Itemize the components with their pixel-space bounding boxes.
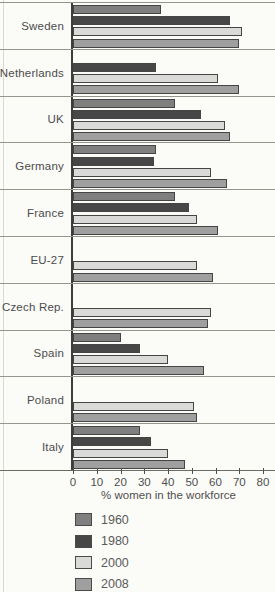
category-bars xyxy=(71,237,275,283)
bar-slot xyxy=(73,425,275,436)
bar-slot xyxy=(73,109,275,120)
bar-2000 xyxy=(73,308,211,317)
category-bars xyxy=(71,143,275,189)
bar-2008 xyxy=(73,226,218,235)
x-axis-tick xyxy=(216,468,217,474)
bar-2000 xyxy=(73,168,211,177)
legend-swatch-2008 xyxy=(75,578,92,591)
bar-slot xyxy=(73,38,275,49)
bar-chart: SwedenNetherlandsUKGermanyFranceEU-27Cze… xyxy=(0,0,275,504)
bar-slot xyxy=(73,26,275,37)
bar-1960 xyxy=(73,333,121,342)
category-label: Germany xyxy=(0,143,71,189)
bar-2000 xyxy=(73,215,197,224)
category-label: Sweden xyxy=(0,3,71,49)
bar-2008 xyxy=(73,179,227,188)
legend-swatch-1960 xyxy=(75,513,92,526)
bar-2000 xyxy=(73,74,218,83)
legend-label: 2008 xyxy=(101,577,129,591)
bar-slot xyxy=(73,307,275,318)
bar-slot xyxy=(73,191,275,202)
bar-slot xyxy=(73,225,275,236)
x-axis-tick-label: 40 xyxy=(162,476,175,488)
x-axis: 01020304050607080 % women in the workfor… xyxy=(0,470,275,504)
x-axis-tick xyxy=(121,468,122,474)
bar-slot xyxy=(73,15,275,26)
category-label: Netherlands xyxy=(0,50,71,96)
bar-slot xyxy=(73,378,275,389)
category-bars xyxy=(71,331,275,377)
bar-2000 xyxy=(73,449,168,458)
legend-label: 2000 xyxy=(101,556,129,570)
bar-slot xyxy=(73,202,275,213)
bar-2000 xyxy=(73,355,168,364)
bar-1960 xyxy=(73,5,161,14)
bar-slot xyxy=(73,214,275,225)
bar-slot xyxy=(73,272,275,283)
bar-2000 xyxy=(73,27,242,36)
x-axis-tick xyxy=(239,468,240,474)
legend-label: 1980 xyxy=(101,534,129,548)
bar-slot xyxy=(73,390,275,401)
category-bars xyxy=(71,377,275,423)
category-bars xyxy=(71,3,275,49)
bar-slot xyxy=(73,238,275,249)
bar-1980 xyxy=(73,110,201,119)
bar-slot xyxy=(73,167,275,178)
chart-row: Sweden xyxy=(0,2,275,49)
category-label: Poland xyxy=(0,377,71,423)
bar-2008 xyxy=(73,39,239,48)
bar-slot xyxy=(73,249,275,260)
category-bars xyxy=(71,97,275,143)
x-axis-tick xyxy=(73,468,74,474)
legend-swatch-1980 xyxy=(75,535,92,548)
bar-1980 xyxy=(73,344,140,353)
chart-row: Poland xyxy=(0,376,275,423)
bar-slot xyxy=(73,62,275,73)
bar-slot xyxy=(73,354,275,365)
bar-slot xyxy=(73,131,275,142)
bar-1980 xyxy=(73,437,151,446)
chart-row: Netherlands xyxy=(0,49,275,96)
category-label: EU-27 xyxy=(0,237,71,283)
chart-page: SwedenNetherlandsUKGermanyFranceEU-27Cze… xyxy=(0,0,275,592)
chart-row: Germany xyxy=(0,142,275,189)
bar-slot xyxy=(73,260,275,271)
legend-label: 1960 xyxy=(101,513,129,527)
category-label: Spain xyxy=(0,331,71,377)
bar-1960 xyxy=(73,426,140,435)
bar-1960 xyxy=(73,192,175,201)
bar-1960 xyxy=(73,99,175,108)
x-axis-tick xyxy=(144,468,145,474)
bar-2008 xyxy=(73,366,204,375)
x-axis-tick xyxy=(168,468,169,474)
bar-2008 xyxy=(73,413,197,422)
bar-slot xyxy=(73,365,275,376)
legend-item-2000: 2000 xyxy=(75,552,275,574)
x-axis-line xyxy=(0,470,275,471)
x-axis-tick-label: 70 xyxy=(233,476,246,488)
legend-swatch-2000 xyxy=(75,556,92,569)
bar-slot xyxy=(73,156,275,167)
chart-rows: SwedenNetherlandsUKGermanyFranceEU-27Cze… xyxy=(0,2,275,470)
x-axis-tick-label: 30 xyxy=(138,476,151,488)
bar-2008 xyxy=(73,273,213,282)
category-bars xyxy=(71,190,275,236)
bar-slot xyxy=(73,4,275,15)
category-bars xyxy=(71,50,275,96)
x-axis-tick-label: 0 xyxy=(70,476,76,488)
chart-row: France xyxy=(0,189,275,236)
bar-slot xyxy=(73,178,275,189)
legend-item-1960: 1960 xyxy=(75,509,275,531)
chart-legend: 1960198020002008 xyxy=(0,504,275,592)
bar-1980 xyxy=(73,203,189,212)
bar-slot xyxy=(73,343,275,354)
bar-slot xyxy=(73,144,275,155)
x-axis-tick-label: 50 xyxy=(185,476,198,488)
bar-slot xyxy=(73,84,275,95)
legend-item-2008: 2008 xyxy=(75,573,275,592)
x-axis-title: % women in the workforce xyxy=(73,489,264,501)
chart-row: EU-27 xyxy=(0,236,275,283)
legend-item-1980: 1980 xyxy=(75,530,275,552)
bar-2000 xyxy=(73,402,194,411)
